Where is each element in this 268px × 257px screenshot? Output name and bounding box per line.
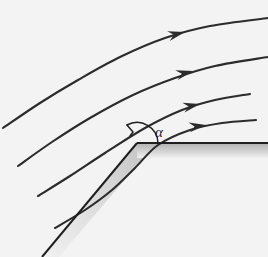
figure-container: α [0, 0, 268, 257]
angle-label-alpha: α [155, 124, 164, 140]
expansion-corner-diagram: α [0, 0, 268, 257]
paper-texture [0, 0, 268, 257]
